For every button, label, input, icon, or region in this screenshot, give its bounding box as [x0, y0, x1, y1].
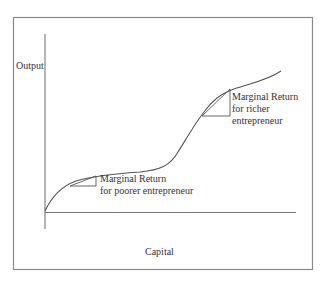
richer-annotation-line3: entrepreneur — [232, 115, 283, 127]
diagram-frame — [14, 18, 313, 270]
marginal-return-poorer-triangle — [70, 176, 96, 186]
marginal-return-richer-triangle — [202, 89, 230, 116]
richer-annotation-line2: for richer — [232, 103, 269, 115]
poorer-annotation-line2: for poorer entrepreneur — [100, 185, 193, 197]
y-axis-label: Output — [16, 60, 44, 72]
richer-annotation-line1: Marginal Return — [232, 91, 298, 103]
diagram-canvas: Output Capital Marginal Return for poore… — [0, 0, 326, 282]
poorer-annotation-line1: Marginal Return — [100, 173, 166, 185]
x-axis-label: Capital — [145, 246, 174, 258]
